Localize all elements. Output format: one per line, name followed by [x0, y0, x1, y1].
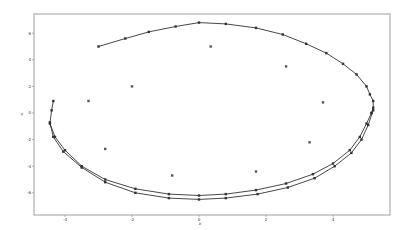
data-point-marker [168, 193, 170, 195]
data-point-marker [52, 136, 54, 138]
data-point-marker [322, 101, 324, 103]
data-point-marker [210, 45, 212, 47]
y-tick-label: 4 [28, 57, 31, 62]
data-point-marker [134, 192, 136, 194]
data-point-marker [171, 174, 173, 176]
y-tick-label: -4 [27, 164, 31, 169]
data-point-marker [168, 197, 170, 199]
data-point-marker [134, 188, 136, 190]
y-tick-label: 2 [28, 84, 31, 89]
x-tick-label: -4 [63, 217, 67, 222]
data-point-marker [325, 52, 327, 54]
data-point-marker [355, 73, 357, 75]
data-point-marker [81, 166, 83, 168]
data-point-marker [87, 100, 89, 102]
x-tick-label: 2 [265, 217, 268, 222]
data-point-marker [104, 181, 106, 183]
y-axis-ticks: -6-4-20246 [27, 31, 34, 196]
x-tick-label: 4 [332, 217, 335, 222]
data-point-marker [256, 193, 258, 195]
data-point-marker [255, 189, 257, 191]
data-point-marker [255, 170, 257, 172]
data-point-marker [313, 177, 315, 179]
x-tick-label: -2 [130, 217, 134, 222]
x-axis-label: x [199, 221, 202, 226]
y-tick-label: 0 [28, 110, 31, 115]
data-point-marker [365, 85, 367, 87]
data-point-marker [198, 21, 200, 23]
data-point-marker [342, 63, 344, 65]
chart: -4-2024 -6-4-20246 x y [0, 0, 408, 230]
data-point-marker [104, 178, 106, 180]
data-point-marker [131, 85, 133, 87]
y-tick-label: -6 [27, 190, 31, 195]
data-point-marker [97, 45, 99, 47]
data-point-marker [174, 25, 176, 27]
data-point-marker [50, 109, 52, 111]
data-point-marker [49, 121, 51, 123]
data-point-marker [285, 65, 287, 67]
plot-area [34, 14, 390, 215]
data-point-marker [255, 27, 257, 29]
data-point-marker [369, 93, 371, 95]
data-point-marker [285, 182, 287, 184]
y-axis-label: y [21, 111, 24, 116]
data-point-marker [198, 198, 200, 200]
data-point-marker [225, 197, 227, 199]
data-point-marker [359, 136, 361, 138]
data-point-marker [287, 186, 289, 188]
data-point-marker [198, 194, 200, 196]
data-point-marker [367, 124, 369, 126]
data-point-marker [305, 43, 307, 45]
data-point-marker [334, 165, 336, 167]
data-point-marker [332, 162, 334, 164]
y-tick-label: -2 [27, 137, 31, 142]
y-tick-label: 6 [28, 31, 31, 36]
data-point-marker [360, 138, 362, 140]
data-point-marker [372, 100, 374, 102]
data-point-marker [312, 173, 314, 175]
data-point-marker [62, 150, 64, 152]
data-point-marker [225, 23, 227, 25]
data-point-marker [282, 33, 284, 35]
data-point-marker [104, 148, 106, 150]
data-point-marker [52, 100, 54, 102]
data-point-marker [308, 141, 310, 143]
data-point-marker [225, 193, 227, 195]
data-point-marker [372, 107, 374, 109]
data-point-marker [124, 37, 126, 39]
data-point-marker [349, 149, 351, 151]
data-point-marker [350, 152, 352, 154]
data-point-marker [372, 109, 374, 111]
data-point-marker [148, 31, 150, 33]
